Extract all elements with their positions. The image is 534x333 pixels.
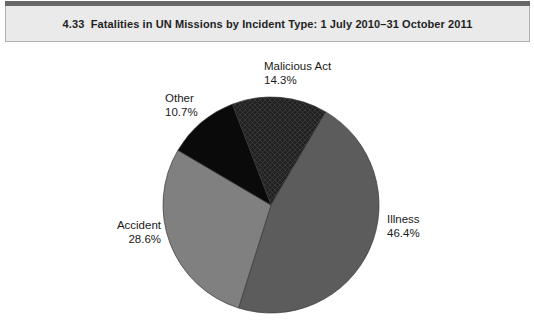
label-other: Other 10.7% bbox=[165, 92, 198, 119]
slice-name: Malicious Act bbox=[264, 60, 331, 74]
pie-chart bbox=[0, 0, 534, 333]
label-accident: Accident 28.6% bbox=[117, 219, 161, 246]
slice-percent: 46.4% bbox=[387, 227, 420, 241]
slice-name: Illness bbox=[387, 213, 420, 227]
figure-4-33: 4.33 Fatalities in UN Missions by Incide… bbox=[0, 0, 534, 333]
slice-percent: 10.7% bbox=[165, 106, 198, 120]
label-illness: Illness 46.4% bbox=[387, 213, 420, 240]
slice-name: Accident bbox=[117, 219, 161, 233]
label-malicious-act: Malicious Act 14.3% bbox=[264, 60, 331, 87]
slice-percent: 28.6% bbox=[117, 233, 161, 247]
slice-percent: 14.3% bbox=[264, 74, 331, 88]
slice-name: Other bbox=[165, 92, 198, 106]
